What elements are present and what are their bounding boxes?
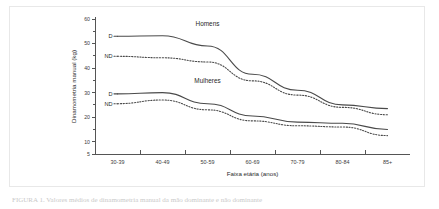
series-label-homens-nd: ND bbox=[104, 53, 112, 59]
figure-frame: 5102030405060Dinamometria manual (kg)30-… bbox=[9, 6, 425, 187]
x-tick-label: 40-49 bbox=[156, 159, 170, 165]
y-tick-label: 40 bbox=[84, 65, 90, 71]
x-axis-title: Faixa etária (anos) bbox=[227, 170, 279, 177]
x-tick-label: 70-79 bbox=[291, 159, 305, 165]
y-axis-title: Dinamometria manual (kg) bbox=[70, 50, 77, 123]
y-tick-label: 60 bbox=[84, 16, 90, 22]
series-label-mulheres-nd: ND bbox=[104, 101, 112, 107]
x-tick-label: 50-59 bbox=[201, 159, 215, 165]
figure-caption: FIGURA 1. Valores médios de dinamometria… bbox=[12, 196, 432, 204]
chart-plot-area: 5102030405060Dinamometria manual (kg)30-… bbox=[10, 7, 426, 188]
figure-page: 5102030405060Dinamometria manual (kg)30-… bbox=[0, 0, 439, 209]
x-tick-label: 30-39 bbox=[111, 159, 125, 165]
series-label-homens-d: D bbox=[108, 33, 112, 39]
group-label-homens: Homens bbox=[196, 20, 220, 27]
line-chart: 5102030405060Dinamometria manual (kg)30-… bbox=[10, 7, 426, 188]
series-line-mulheres-d bbox=[118, 93, 388, 130]
series-line-homens-d bbox=[118, 36, 388, 109]
x-tick-label: 60-69 bbox=[246, 159, 260, 165]
y-tick-label: 10 bbox=[84, 139, 90, 145]
x-tick-label: 80-84 bbox=[336, 159, 350, 165]
y-tick-label: 20 bbox=[84, 114, 90, 120]
y-tick-label: 30 bbox=[84, 90, 90, 96]
series-label-mulheres-d: D bbox=[108, 91, 112, 97]
y-tick-label: 5 bbox=[87, 151, 90, 157]
series-line-homens-nd bbox=[118, 56, 388, 114]
group-label-mulheres: Mulheres bbox=[194, 77, 220, 84]
y-tick-label: 50 bbox=[84, 40, 90, 46]
x-tick-label: 85+ bbox=[383, 159, 392, 165]
